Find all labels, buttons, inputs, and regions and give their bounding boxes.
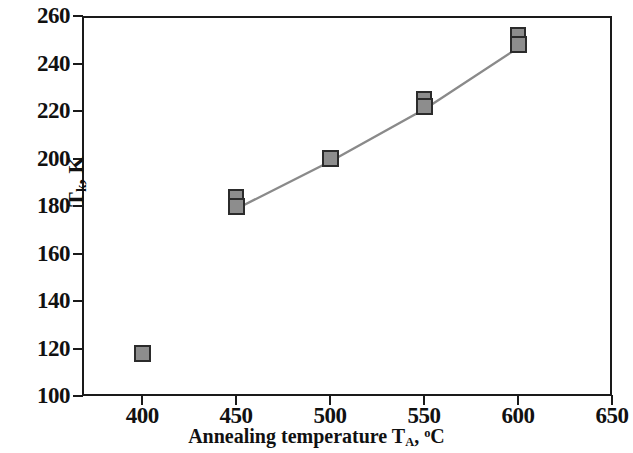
x-axis-title: Annealing temperature TA, oC <box>0 425 633 450</box>
x-tick-label-450: 450 <box>196 404 276 427</box>
series-line <box>84 18 614 398</box>
y-tick-140 <box>73 300 83 302</box>
x-tick-label-650: 650 <box>572 404 633 427</box>
y-tick-260 <box>73 15 83 17</box>
y-tick-label-100: 100 <box>0 384 70 407</box>
y-tick-label-120: 120 <box>0 337 70 360</box>
y-tick-label-260: 260 <box>0 4 70 27</box>
y-axis-title: Tk, K <box>63 102 90 262</box>
chart-figure: 260240220200180160140120100 400450500550… <box>0 0 633 453</box>
marker-annealed-series-550 <box>416 98 433 115</box>
y-tick-label-160: 160 <box>0 242 70 265</box>
marker-annealed-series-450 <box>228 198 245 215</box>
y-axis-title-text: Tk, K <box>63 156 88 206</box>
y-tick-120 <box>73 348 83 350</box>
x-axis-title-text: Annealing temperature TA, oC <box>188 425 445 447</box>
marker-isolated-point-400 <box>134 345 151 362</box>
plot-area <box>82 16 612 396</box>
y-tick-100 <box>73 395 83 397</box>
y-tick-label-180: 180 <box>0 194 70 217</box>
y-tick-label-240: 240 <box>0 52 70 75</box>
marker-annealed-series-600 <box>510 36 527 53</box>
x-tick-label-400: 400 <box>102 404 182 427</box>
x-tick-label-500: 500 <box>290 404 370 427</box>
y-tick-label-220: 220 <box>0 99 70 122</box>
marker-annealed-series-500 <box>322 150 339 167</box>
x-tick-label-550: 550 <box>384 404 464 427</box>
trend-line <box>238 47 520 209</box>
x-tick-label-600: 600 <box>478 404 558 427</box>
y-tick-label-200: 200 <box>0 147 70 170</box>
y-tick-240 <box>73 63 83 65</box>
y-tick-label-140: 140 <box>0 289 70 312</box>
